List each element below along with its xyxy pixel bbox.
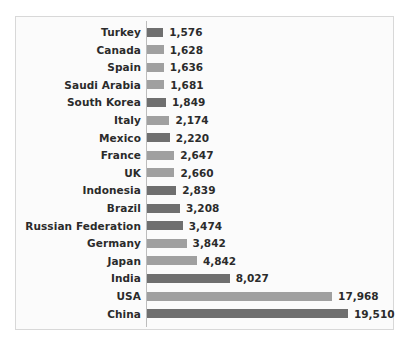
bar-value-label: 2,220	[176, 129, 209, 147]
bar-row: China19,510	[16, 305, 393, 323]
bar-value-label: 2,647	[180, 146, 213, 164]
bar	[147, 186, 176, 195]
bar-row: South Korea1,849	[16, 93, 393, 111]
bar	[147, 168, 174, 177]
category-label: Italy	[16, 111, 141, 129]
bar-value-label: 19,510	[354, 305, 395, 323]
bar	[147, 309, 348, 318]
bar	[147, 98, 166, 107]
bar	[147, 133, 170, 142]
bar-value-label: 17,968	[338, 287, 379, 305]
bar-row: Saudi Arabia1,681	[16, 76, 393, 94]
category-label: Turkey	[16, 23, 141, 41]
bar	[147, 274, 230, 283]
category-label: South Korea	[16, 93, 141, 111]
bar-row: Japan4,842	[16, 252, 393, 270]
category-label: Japan	[16, 252, 141, 270]
bar-and-value: 3,474	[147, 217, 222, 235]
bar-row: Canada1,628	[16, 41, 393, 59]
bar-and-value: 2,660	[147, 164, 214, 182]
category-label: Mexico	[16, 129, 141, 147]
bar-and-value: 1,849	[147, 93, 205, 111]
bar-row: India8,027	[16, 269, 393, 287]
bar-and-value: 1,576	[147, 23, 202, 41]
bar-and-value: 4,842	[147, 252, 236, 270]
category-label: India	[16, 269, 141, 287]
bar-and-value: 1,628	[147, 41, 203, 59]
category-label: UK	[16, 164, 141, 182]
bar-and-value: 2,220	[147, 129, 209, 147]
bar-row: Mexico2,220	[16, 129, 393, 147]
category-label: Russian Federation	[16, 217, 141, 235]
bar-value-label: 2,839	[182, 181, 215, 199]
bar-row: Russian Federation3,474	[16, 217, 393, 235]
bar-value-label: 8,027	[236, 269, 269, 287]
bar-value-label: 1,628	[170, 41, 203, 59]
bar-and-value: 8,027	[147, 269, 269, 287]
bar-row: UK2,660	[16, 164, 393, 182]
category-label: Indonesia	[16, 181, 141, 199]
bar-row: Germany3,842	[16, 234, 393, 252]
bar-row: Turkey1,576	[16, 23, 393, 41]
bar	[147, 151, 174, 160]
category-label: Canada	[16, 41, 141, 59]
bar	[147, 292, 332, 301]
bar-value-label: 1,636	[170, 58, 203, 76]
bar-value-label: 2,660	[180, 164, 213, 182]
bar-value-label: 3,842	[193, 234, 226, 252]
bar-value-label: 3,474	[189, 217, 222, 235]
category-label: France	[16, 146, 141, 164]
bar-row: Spain1,636	[16, 58, 393, 76]
bar-value-label: 3,208	[186, 199, 219, 217]
chart-plot-frame: Turkey1,576Canada1,628Spain1,636Saudi Ar…	[15, 16, 394, 330]
bar-and-value: 1,681	[147, 76, 204, 94]
bar-row: Indonesia2,839	[16, 181, 393, 199]
bar	[147, 116, 169, 125]
bar-value-label: 1,576	[169, 23, 202, 41]
bar-and-value: 3,842	[147, 234, 226, 252]
bar	[147, 45, 164, 54]
category-label: China	[16, 305, 141, 323]
bar-and-value: 2,839	[147, 181, 215, 199]
bar-chart-figure: Turkey1,576Canada1,628Spain1,636Saudi Ar…	[0, 0, 410, 348]
category-label: Saudi Arabia	[16, 76, 141, 94]
bar	[147, 28, 163, 37]
bar-row: Brazil3,208	[16, 199, 393, 217]
bar	[147, 63, 164, 72]
category-label: USA	[16, 287, 141, 305]
bar-value-label: 2,174	[175, 111, 208, 129]
bar-value-label: 1,849	[172, 93, 205, 111]
bar-value-label: 4,842	[203, 252, 236, 270]
bar	[147, 239, 187, 248]
category-label: Brazil	[16, 199, 141, 217]
bar-and-value: 2,174	[147, 111, 209, 129]
bar-rows-container: Turkey1,576Canada1,628Spain1,636Saudi Ar…	[16, 17, 393, 329]
bar-and-value: 17,968	[147, 287, 379, 305]
bar-row: USA17,968	[16, 287, 393, 305]
category-label: Germany	[16, 234, 141, 252]
category-label: Spain	[16, 58, 141, 76]
bar-and-value: 1,636	[147, 58, 203, 76]
bar	[147, 204, 180, 213]
bar	[147, 256, 197, 265]
bar	[147, 80, 164, 89]
bar-value-label: 1,681	[170, 76, 203, 94]
bar-and-value: 2,647	[147, 146, 213, 164]
bar-and-value: 3,208	[147, 199, 219, 217]
bar	[147, 221, 183, 230]
bar-and-value: 19,510	[147, 305, 395, 323]
bar-row: France2,647	[16, 146, 393, 164]
bar-row: Italy2,174	[16, 111, 393, 129]
